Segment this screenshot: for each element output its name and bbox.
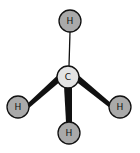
atom-h3: H: [109, 96, 131, 118]
bond-c-h3-wedge: [74, 73, 112, 108]
atom-h4-label: H: [66, 128, 73, 138]
methane-diagram: H H H H C: [0, 0, 140, 153]
atom-h2: H: [7, 96, 29, 118]
atom-h4: H: [58, 122, 80, 144]
atom-c: C: [57, 66, 79, 88]
atom-h1-label: H: [67, 16, 74, 26]
atom-h1: H: [59, 10, 81, 32]
bond-c-h4-wedge: [64, 86, 72, 122]
bond-c-h1: [69, 32, 70, 66]
atom-c-label: C: [65, 72, 71, 82]
atom-h3-label: H: [117, 102, 124, 112]
atom-h2-label: H: [15, 102, 22, 112]
